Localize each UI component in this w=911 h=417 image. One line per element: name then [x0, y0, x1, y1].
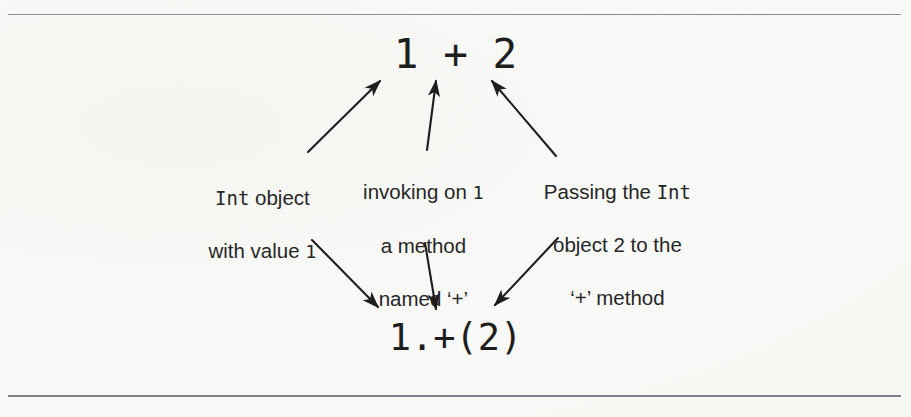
arrow-layer	[0, 0, 911, 417]
arrow-middle-up	[427, 81, 436, 150]
arrow-left-down	[312, 240, 378, 307]
arrow-right-down	[495, 238, 558, 305]
arrow-left-up	[308, 81, 380, 152]
diagram-page: 1 + 2 1.+(2) Int object with value 1 inv…	[0, 0, 911, 417]
arrow-right-up	[492, 81, 556, 156]
arrow-middle-down	[425, 243, 436, 309]
